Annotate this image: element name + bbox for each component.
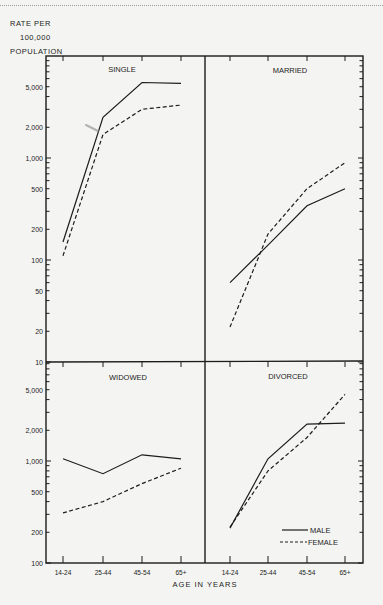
series-divorced-male — [230, 423, 345, 528]
y-tick-label: 200 — [31, 529, 43, 536]
series-widowed-female — [63, 468, 181, 513]
horizontal-divider — [46, 361, 363, 362]
x-tick-label: 14-24 — [222, 569, 239, 576]
x-tick-label: 45-54 — [134, 569, 151, 576]
panel-title-married: MARRIED — [273, 66, 308, 75]
y-tick-label: 50 — [35, 288, 43, 295]
chart-figure: 5,0002,0001,0005002001005020105,0002,000… — [0, 0, 383, 605]
y-tick-label: 500 — [31, 489, 43, 496]
y-tick-label: 2,000 — [25, 427, 43, 434]
legend-female-label: FEMALE — [308, 538, 338, 547]
y-tick-label: 200 — [31, 226, 43, 233]
y-tick-label: 10 — [35, 359, 43, 366]
series-married-male — [230, 189, 345, 283]
x-tick-label: 65+ — [339, 569, 350, 576]
panel-title-divorced: DIVORCED — [268, 372, 308, 381]
scan-smudge — [86, 125, 98, 131]
x-tick-label: 25-44 — [260, 569, 277, 576]
y-tick-label: 1,000 — [25, 458, 43, 465]
x-tick-label: 14-24 — [55, 569, 72, 576]
series-divorced-female — [230, 394, 345, 527]
y-tick-label: 1,000 — [25, 155, 43, 162]
panel-title-single: SINGLE — [108, 65, 136, 74]
y-tick-label: 100 — [31, 560, 43, 567]
series-widowed-male — [63, 455, 181, 474]
x-tick-label: 65+ — [175, 569, 186, 576]
y-tick-label: 2,000 — [25, 124, 43, 131]
y-tick-label: 5,000 — [25, 84, 43, 91]
y-tick-label: 20 — [35, 328, 43, 335]
series-single-female — [63, 105, 181, 256]
series-married-female — [230, 163, 345, 327]
x-tick-label: 45-54 — [299, 569, 316, 576]
x-axis-title: AGE IN YEARS — [173, 580, 238, 589]
legend-male-label: MALE — [310, 526, 330, 535]
y-tick-label: 5,000 — [25, 387, 43, 394]
panel-title-widowed: WIDOWED — [109, 373, 147, 382]
y-tick-label: 100 — [31, 257, 43, 264]
y-tick-label: 500 — [31, 186, 43, 193]
x-tick-label: 25-44 — [95, 569, 112, 576]
